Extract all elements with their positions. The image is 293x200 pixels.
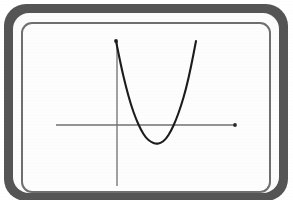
x-axis-end-dot — [233, 123, 237, 127]
curve-left-endpoint-dot — [114, 39, 118, 43]
parabola-curve — [116, 41, 196, 144]
graph-plot — [0, 0, 293, 200]
figure-container — [0, 0, 293, 200]
